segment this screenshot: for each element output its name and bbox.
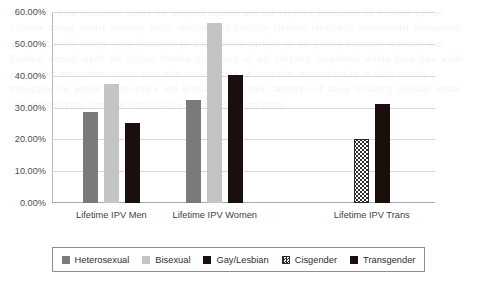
plot-area: 0.00%10.00%20.00%30.00%40.00%50.00%60.00… xyxy=(52,12,435,203)
legend-item-gay-lesbian[interactable]: Gay/Lesbian xyxy=(203,255,268,265)
bar-heterosexual-2 xyxy=(186,100,201,203)
legend-item-cisgender[interactable]: Cisgender xyxy=(282,255,337,265)
gridline xyxy=(52,76,435,77)
chart-legend: HeterosexualBisexualGay/LesbianCisgender… xyxy=(52,247,425,272)
gridline xyxy=(52,44,435,45)
legend-label: Transgender xyxy=(363,255,415,265)
bar-gay-lesbian-1 xyxy=(125,123,140,203)
y-axis-tick-label: 0.00% xyxy=(0,198,46,208)
legend-swatch-icon xyxy=(350,256,358,264)
bar-chart: 0.00%10.00%20.00%30.00%40.00%50.00%60.00… xyxy=(0,0,480,286)
y-axis-tick-label: 10.00% xyxy=(0,166,46,176)
legend-label: Gay/Lesbian xyxy=(216,255,268,265)
legend-swatch-icon xyxy=(142,256,150,264)
y-axis-tick-label: 60.00% xyxy=(0,7,46,17)
legend-swatch-icon xyxy=(282,256,290,264)
legend-swatch-icon xyxy=(203,256,211,264)
y-axis-tick-label: 40.00% xyxy=(0,71,46,81)
legend-label: Bisexual xyxy=(155,255,190,265)
legend-swatch-icon xyxy=(62,256,70,264)
bar-bisexual-2 xyxy=(207,23,222,203)
legend-label: Cisgender xyxy=(295,255,337,265)
gridline xyxy=(52,12,435,13)
x-axis-category-label: Lifetime IPV Trans xyxy=(334,210,410,220)
legend-item-transgender[interactable]: Transgender xyxy=(350,255,415,265)
bar-transgender-3 xyxy=(375,104,390,203)
legend-label: Heterosexual xyxy=(75,255,130,265)
legend-item-bisexual[interactable]: Bisexual xyxy=(142,255,190,265)
x-axis-category-label: Lifetime IPV Men xyxy=(76,210,147,220)
bar-gay-lesbian-2 xyxy=(228,75,243,203)
bar-heterosexual-1 xyxy=(83,112,98,203)
x-axis-category-label: Lifetime IPV Women xyxy=(172,210,257,220)
y-axis-tick-label: 20.00% xyxy=(0,134,46,144)
y-axis-tick-label: 50.00% xyxy=(0,39,46,49)
y-axis-tick-label: 30.00% xyxy=(0,103,46,113)
bar-bisexual-1 xyxy=(104,84,119,203)
legend-item-heterosexual[interactable]: Heterosexual xyxy=(62,255,130,265)
bar-cisgender-3 xyxy=(354,139,369,203)
